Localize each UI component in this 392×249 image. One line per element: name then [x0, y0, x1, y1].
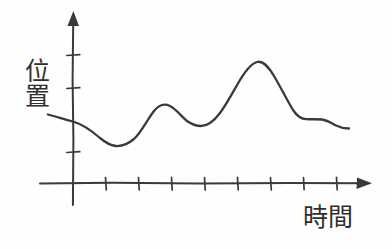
y-axis-arrowhead [67, 11, 79, 26]
x-tick [337, 177, 338, 189]
x-tick [106, 178, 107, 191]
x-tick [238, 177, 239, 189]
x-axis-line [40, 183, 358, 184]
x-axis-arrowhead [357, 178, 373, 190]
x-tick [172, 177, 173, 190]
y-axis-group [67, 11, 80, 205]
x-axis-group [40, 177, 372, 190]
y-axis-label: 位置 [14, 58, 48, 120]
x-tick [304, 178, 305, 190]
y-tick [67, 88, 80, 89]
x-tick [271, 178, 272, 191]
y-tick [67, 55, 80, 56]
x-tick [139, 178, 140, 190]
x-tick [205, 178, 206, 190]
position-curve [48, 62, 349, 146]
y-axis-line [73, 24, 74, 205]
y-tick [67, 152, 80, 153]
hand-drawn-position-time-graph: 位置 時間 [0, 0, 392, 249]
x-axis-label: 時間 [303, 205, 353, 230]
